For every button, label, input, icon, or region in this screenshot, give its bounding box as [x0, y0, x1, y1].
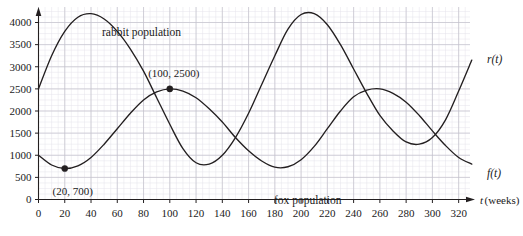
y-axis-tick-labels: 05001000150020002500300035004000: [10, 16, 33, 205]
population-line-chart: 05001000150020002500300035004000 0204060…: [0, 0, 523, 236]
y-tick-label: 3000: [10, 61, 33, 73]
x-tick-label: 20: [59, 207, 71, 219]
x-axis-tick-labels: 0204060801001201401601802002202402602803…: [36, 207, 468, 219]
x-tick-label: 300: [424, 207, 441, 219]
y-tick-label: 500: [15, 171, 32, 183]
x-tick-label: 260: [372, 207, 389, 219]
x-tick-label: 280: [398, 207, 415, 219]
series-symbol-label: r(t): [487, 53, 503, 66]
x-axis-arrowhead: [466, 197, 475, 203]
x-tick-label: 160: [240, 207, 257, 219]
x-tick-label: 220: [319, 207, 336, 219]
point-annotations: (20, 700)(100, 2500): [53, 67, 200, 198]
x-tick-label: 40: [86, 207, 98, 219]
y-tick-label: 3500: [10, 38, 33, 50]
x-tick-label: 140: [214, 207, 231, 219]
data-point-marker: [167, 86, 173, 92]
x-tick-label: 240: [345, 207, 362, 219]
series-symbols: r(t)f(t): [487, 53, 503, 180]
figure-container: 05001000150020002500300035004000 0204060…: [0, 0, 523, 236]
data-point-marker: [62, 165, 68, 171]
x-tick-label: 0: [36, 207, 42, 219]
y-tick-label: 1000: [10, 149, 33, 161]
series-symbol-label: f(t): [487, 167, 501, 180]
x-axis-caption: t(weeks): [480, 194, 520, 207]
point-annotation-label: (20, 700): [53, 185, 94, 198]
axis-ticks: [35, 23, 459, 204]
x-axis-caption: t(weeks): [480, 194, 520, 207]
y-tick-label: 2000: [10, 105, 33, 117]
x-tick-label: 120: [188, 207, 205, 219]
y-tick-label: 2500: [10, 83, 33, 95]
point-annotation-label: (100, 2500): [148, 67, 200, 80]
y-tick-label: 0: [26, 193, 32, 205]
x-tick-label: 80: [138, 207, 150, 219]
series-caption-label: rabbit population: [102, 26, 181, 39]
series-caption-label: fox population: [274, 194, 342, 207]
y-tick-label: 4000: [10, 16, 33, 28]
x-tick-label: 100: [162, 207, 179, 219]
y-tick-label: 1500: [10, 127, 33, 139]
x-tick-label: 200: [293, 207, 310, 219]
x-tick-label: 60: [112, 207, 124, 219]
x-tick-label: 320: [450, 207, 467, 219]
x-tick-label: 180: [267, 207, 284, 219]
